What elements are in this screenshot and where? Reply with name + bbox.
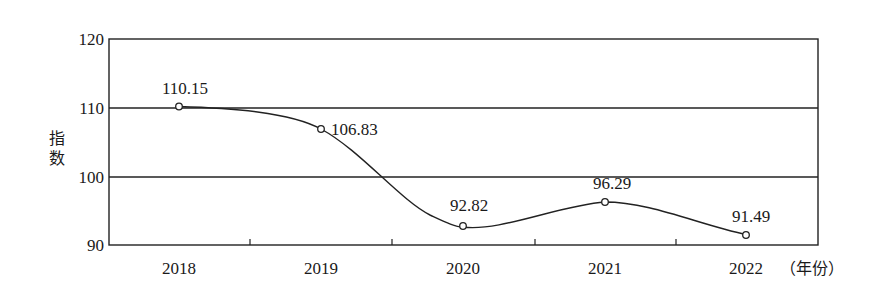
- data-point-2020: [460, 223, 467, 230]
- y-tick-label: 90: [87, 236, 104, 255]
- x-tick-label: 2021: [588, 259, 622, 278]
- x-tick-label: 2022: [729, 259, 763, 278]
- x-tick-label: 2019: [304, 259, 338, 278]
- data-label-2021: 96.29: [593, 174, 631, 193]
- y-tick-label: 110: [79, 99, 104, 118]
- data-point-2019: [318, 126, 325, 133]
- x-tick-label: 2020: [446, 259, 480, 278]
- data-label-2020: 92.82: [450, 196, 488, 215]
- x-axis-ticks: [250, 239, 676, 245]
- x-axis-label: （年份）: [780, 259, 844, 278]
- x-tick-label: 2018: [162, 259, 196, 278]
- y-tick-label: 120: [79, 30, 105, 49]
- data-label-2018: 110.15: [162, 79, 208, 98]
- line-chart: 120 110 100 90 指 数 2018 2019 2020 2021 2…: [0, 0, 894, 303]
- data-markers: [176, 103, 750, 238]
- y-tick-label: 100: [79, 168, 105, 187]
- data-line: [179, 107, 746, 235]
- data-label-2019: 106.83: [331, 120, 378, 139]
- data-point-2021: [602, 199, 609, 206]
- data-point-2022: [743, 232, 750, 239]
- y-axis-label-char-2: 数: [49, 149, 65, 168]
- data-point-2018: [176, 103, 183, 110]
- data-label-2022: 91.49: [732, 207, 770, 226]
- y-axis-label-char-1: 指: [49, 129, 65, 148]
